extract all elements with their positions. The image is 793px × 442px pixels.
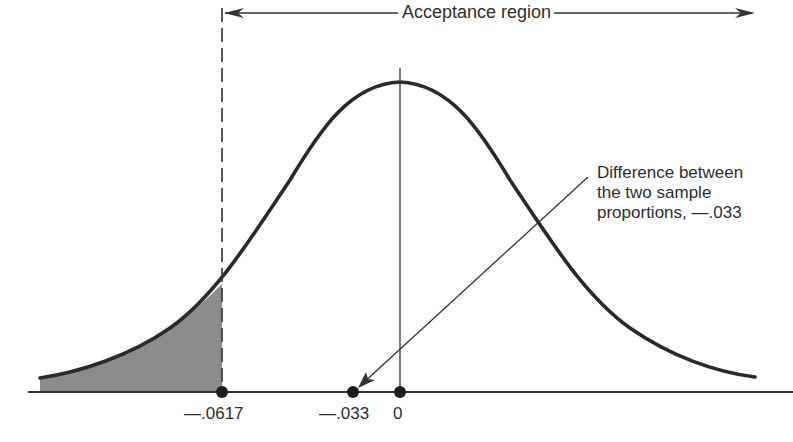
rejection-region-shading: [40, 284, 222, 392]
sample-difference-point: [347, 386, 359, 398]
annotation-line-2: the two sample: [597, 183, 743, 203]
annotation-line-3: proportions, —.033: [597, 203, 743, 223]
critical-value-point: [216, 386, 228, 398]
mean-point: [394, 386, 406, 398]
normal-curve: [40, 82, 755, 378]
mean-label: 0: [393, 405, 402, 422]
acceptance-region-label: Acceptance region: [399, 3, 554, 21]
sample-difference-label: —.033: [319, 405, 369, 422]
annotation-leader-line: [362, 177, 588, 384]
critical-value-label: —.0617: [184, 405, 244, 422]
annotation-line-1: Difference between: [597, 163, 743, 183]
sample-difference-annotation: Difference between the two sample propor…: [597, 163, 743, 223]
